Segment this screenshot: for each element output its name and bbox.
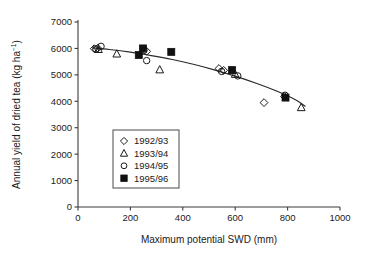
legend-label-1992-93: 1992/93 — [134, 135, 168, 146]
y-tick-label: 2000 — [51, 149, 72, 160]
chart-figure: 0100020003000400050006000700002004006008… — [0, 0, 366, 259]
data-point-1993-94 — [156, 66, 164, 73]
x-tick-label: 200 — [122, 212, 138, 223]
legend-label-1995-96: 1995/96 — [134, 173, 168, 184]
y-tick-label: 1000 — [51, 175, 72, 186]
data-point-1993-94 — [297, 103, 305, 110]
legend-label-1993-94: 1993/94 — [134, 148, 168, 159]
x-tick-label: 0 — [75, 212, 80, 223]
fitted-response-curve — [92, 48, 305, 107]
x-axis-title: Maximum potential SWD (mm) — [141, 234, 277, 245]
data-point-1995-96 — [139, 45, 146, 52]
x-tick-label: 400 — [175, 212, 191, 223]
legend-label-1994-95: 1994/95 — [134, 160, 168, 171]
data-point-1995-96 — [135, 52, 142, 59]
data-point-1994-95 — [143, 57, 149, 63]
y-tick-label: 0 — [67, 201, 72, 212]
data-point-1995-96 — [168, 48, 175, 55]
y-axis-title: Annual yield of dried tea (kg ha−1) — [10, 40, 22, 189]
y-tick-label: 5000 — [51, 69, 72, 80]
x-tick-label: 1000 — [329, 212, 350, 223]
data-point-1992-93 — [260, 99, 268, 107]
x-tick-label: 800 — [280, 212, 296, 223]
y-tick-label: 3000 — [51, 122, 72, 133]
scatter-chart: 0100020003000400050006000700002004006008… — [0, 0, 366, 259]
y-tick-label: 7000 — [51, 16, 72, 27]
y-tick-label: 6000 — [51, 43, 72, 54]
x-tick-label: 600 — [227, 212, 243, 223]
data-point-1995-96 — [229, 67, 236, 74]
y-tick-label: 4000 — [51, 96, 72, 107]
legend-marker-1995-96 — [121, 175, 127, 181]
data-point-1995-96 — [282, 94, 289, 101]
